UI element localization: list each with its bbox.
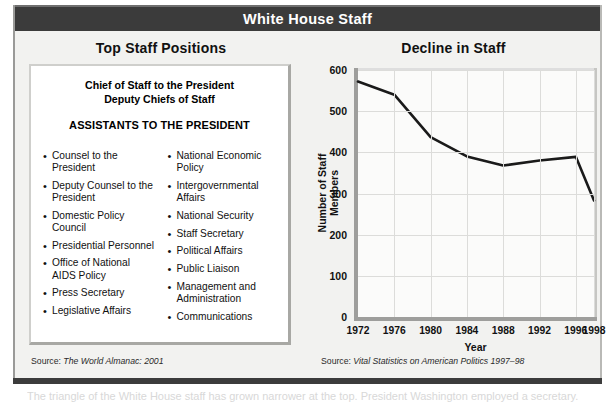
bullet-icon: • (43, 150, 52, 162)
list-item: • Presidential Personnel (43, 240, 156, 252)
staff-positions-box: Chief of Staff to the President Deputy C… (29, 64, 291, 345)
panel-decline-in-staff: Decline in Staff Number of Staff Members… (307, 31, 600, 376)
grid-line-vertical (540, 70, 541, 317)
chart-series-svg (354, 68, 597, 321)
list-item-label: Staff Secretary (177, 228, 285, 240)
right-panel-heading: Decline in Staff (307, 40, 600, 56)
list-item-label: National Security (177, 210, 285, 222)
bullet-icon: • (168, 150, 177, 162)
bullet-icon: • (168, 281, 177, 293)
grid-line-vertical (576, 70, 577, 317)
chart-x-axis-label: Year (354, 341, 597, 353)
y-axis-tick-label: 0 (313, 311, 347, 323)
grid-line-vertical (467, 70, 468, 317)
bullet-icon: • (168, 263, 177, 275)
list-item: • National Economic Policy (168, 150, 285, 174)
list-item-label: Legislative Affairs (52, 305, 156, 317)
list-item-label: Communications (177, 311, 285, 323)
grid-line-vertical (594, 70, 595, 317)
left-panel-heading: Top Staff Positions (15, 40, 307, 56)
list-item: • Press Secretary (43, 287, 156, 299)
list-item: • National Security (168, 210, 285, 222)
y-axis-tick-label: 300 (313, 188, 347, 200)
grid-line-vertical (431, 70, 432, 317)
bullet-column-left: • Counsel to the President • Deputy Coun… (31, 150, 160, 328)
source-left-title: The World Almanac: 2001 (63, 356, 163, 366)
list-item: • Counsel to the President (43, 150, 156, 174)
bullet-icon: • (43, 240, 52, 252)
bullet-icon: • (43, 305, 52, 317)
list-item: • Office of National AIDS Policy (43, 257, 156, 281)
bullet-icon: • (43, 257, 52, 269)
panels-container: Top Staff Positions Chief of Staff to th… (15, 31, 600, 376)
bullet-column-right: • National Economic Policy • Intergovern… (160, 150, 289, 328)
inset-subtitle: ASSISTANTS TO THE PRESIDENT (31, 119, 288, 131)
source-right-title: Vital Statistics on American Politics 19… (353, 356, 524, 366)
list-item: • Political Affairs (168, 245, 285, 257)
list-item-label: Public Liaison (177, 263, 285, 275)
list-item: • Deputy Counsel to the President (43, 180, 156, 204)
figure-container: White House Staff Top Staff Positions Ch… (13, 5, 602, 384)
bullet-icon: • (168, 210, 177, 222)
bullet-icon: • (168, 180, 177, 192)
source-left: Source: The World Almanac: 2001 (31, 356, 163, 366)
y-axis-tick-label: 500 (313, 105, 347, 117)
list-item: • Domestic Policy Council (43, 210, 156, 234)
list-item-label: Intergovernmental Affairs (177, 180, 285, 204)
figure-border-bottom (13, 378, 602, 384)
y-axis-tick-label: 100 (313, 270, 347, 282)
list-item-label: National Economic Policy (177, 150, 285, 174)
list-item: • Communications (168, 311, 285, 323)
list-item: • Public Liaison (168, 263, 285, 275)
chart-y-axis-ticks: 0100200300400500600 (313, 63, 347, 323)
chart-x-axis-ticks: 19721976198019841988199219961998 (354, 325, 597, 341)
list-item-label: Management and Administration (177, 281, 285, 305)
list-item-label: Deputy Counsel to the President (52, 180, 156, 204)
grid-line-vertical (503, 70, 504, 317)
source-right: Source: Vital Statistics on American Pol… (321, 356, 524, 366)
source-right-prefix: Source: (321, 356, 353, 366)
list-item-label: Political Affairs (177, 245, 285, 257)
list-item: • Staff Secretary (168, 228, 285, 240)
bullet-columns: • Counsel to the President • Deputy Coun… (31, 150, 288, 328)
source-left-prefix: Source: (31, 356, 63, 366)
bullet-icon: • (43, 210, 52, 222)
list-item-label: Domestic Policy Council (52, 210, 156, 234)
chart-plot-area (354, 68, 597, 321)
list-item: • Intergovernmental Affairs (168, 180, 285, 204)
grid-line-vertical (394, 70, 395, 317)
y-axis-tick-label: 200 (313, 229, 347, 241)
x-axis-tick-label: 1998 (572, 325, 615, 336)
clipped-caption-text: The triangle of the White House staff ha… (27, 392, 587, 402)
list-item-label: Counsel to the President (52, 150, 156, 174)
panel-top-staff-positions: Top Staff Positions Chief of Staff to th… (15, 31, 307, 376)
inset-title-line-2: Deputy Chiefs of Staff (31, 92, 288, 106)
y-axis-tick-label: 600 (313, 64, 347, 76)
figure-title: White House Staff (243, 11, 372, 27)
bullet-icon: • (43, 180, 52, 192)
list-item-label: Press Secretary (52, 287, 156, 299)
list-item-label: Presidential Personnel (52, 240, 156, 252)
bullet-icon: • (168, 245, 177, 257)
inset-title-block: Chief of Staff to the President Deputy C… (31, 78, 288, 106)
line-chart: Number of Staff Members 0100200300400500… (307, 63, 600, 353)
bullet-icon: • (168, 228, 177, 240)
bullet-icon: • (168, 311, 177, 323)
list-item: • Legislative Affairs (43, 305, 156, 317)
inset-title-line-1: Chief of Staff to the President (31, 78, 288, 92)
list-item-label: Office of National AIDS Policy (52, 257, 156, 281)
clipped-body-caption: The triangle of the White House staff ha… (27, 392, 587, 402)
figure-title-bar: White House Staff (15, 7, 600, 31)
list-item: • Management and Administration (168, 281, 285, 305)
bullet-icon: • (43, 287, 52, 299)
y-axis-tick-label: 400 (313, 146, 347, 158)
